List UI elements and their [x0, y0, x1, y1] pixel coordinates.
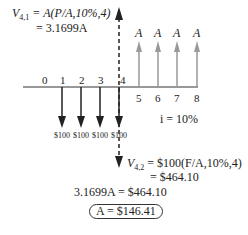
inflow-label-8: A [193, 27, 200, 40]
inflow-label-5: A [135, 27, 142, 40]
v42-value: = $464.10 [150, 171, 199, 184]
inflow-label-7: A [173, 27, 180, 40]
period-7: 7 [174, 93, 180, 104]
period-3: 3 [98, 75, 104, 86]
equate-equation: 3.1699A = $464.10 [74, 186, 167, 199]
inflow-label-6: A [154, 27, 161, 40]
period-0: 0 [42, 75, 48, 86]
outflow-label-1: $100 [54, 132, 70, 140]
result-box: A = $146.41 [89, 204, 163, 219]
period-6: 6 [155, 93, 161, 104]
v42-subscript: 4,2 [134, 163, 144, 172]
period-8: 8 [194, 93, 200, 104]
cash-flow-diagram [0, 0, 248, 235]
outflow-label-2: $100 [73, 132, 89, 140]
period-2: 2 [79, 75, 85, 86]
v41-value: = 3.1699A [36, 22, 87, 35]
v41-formula: = A(P/A,10%,4) [29, 6, 110, 20]
interest-rate: i = 10% [160, 113, 198, 126]
inflow-arrows [136, 41, 200, 87]
period-4: 4 [120, 75, 126, 86]
outflow-label-3: $100 [92, 132, 108, 140]
outflow-label-4: $100 [111, 132, 127, 140]
outflow-arrows [58, 87, 123, 128]
v41-subscript: 4,1 [19, 13, 29, 22]
period-5: 5 [136, 93, 142, 104]
period-1: 1 [60, 75, 66, 86]
v42-formula: = $100(F/A,10%,4) [144, 156, 241, 170]
